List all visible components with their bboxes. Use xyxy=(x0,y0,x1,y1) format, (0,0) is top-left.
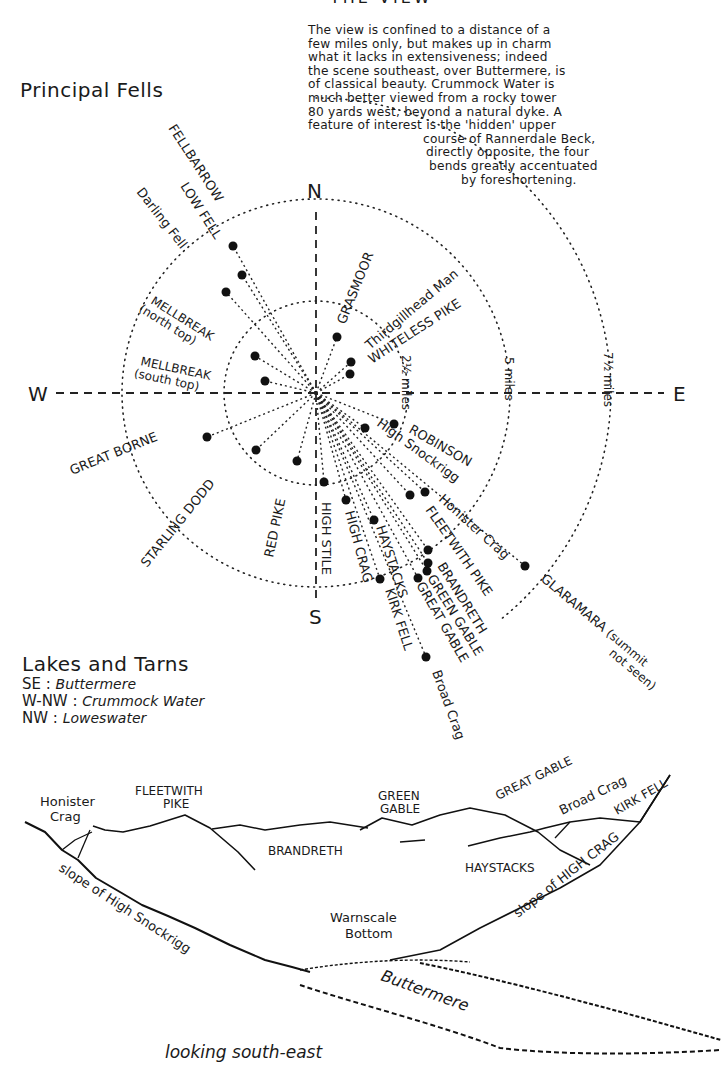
fell-dot-fleetwith-pike xyxy=(424,546,433,555)
fell-dot-honister-a xyxy=(406,491,415,500)
lakes-and-tarns: Lakes and Tarns SE : Buttermere W-NW : C… xyxy=(22,652,204,727)
fell-markers xyxy=(203,242,530,662)
fell-dot-red-pike xyxy=(293,457,302,466)
fell-dot-darling-fell xyxy=(222,288,231,297)
label-broad-crag: Broad Crag xyxy=(429,668,468,742)
fell-dot-grasmoor xyxy=(333,333,342,342)
north-label: N xyxy=(307,179,322,203)
fell-dot-brandreth xyxy=(424,559,433,568)
fell-dot-starling-dodd xyxy=(252,446,261,455)
label-kirk-fell: KIRK FELL xyxy=(382,586,416,652)
lake-item: SE : Buttermere xyxy=(22,676,204,693)
pano-haystacks: HAYSTACKS xyxy=(465,861,535,875)
lake-item: W-NW : Crummock Water xyxy=(22,693,204,710)
fell-dot-haystacks xyxy=(370,516,379,525)
fell-dot-fellbarrow xyxy=(229,242,238,251)
label-glaramara: GLARAMARA (summitnot seen) xyxy=(530,571,668,693)
ring-label-7-5: 7½ miles xyxy=(601,352,615,407)
pano-buttermere: Buttermere xyxy=(379,966,472,1015)
fell-dot-thirdgillhead-man xyxy=(347,358,356,367)
fell-dot-whiteless-pike xyxy=(346,370,355,379)
ridge-brandreth xyxy=(212,822,368,830)
west-label: W xyxy=(28,382,48,406)
compass-diagram: N S W E 2½ miles 5 miles 7½ miles xyxy=(0,0,721,1088)
fell-dot-mellbreak-south xyxy=(261,377,270,386)
fell-dot-honister-crag xyxy=(421,488,430,497)
fell-dot-high-crag xyxy=(342,496,351,505)
pano-great-gable: GREAT GABLE xyxy=(493,753,574,802)
label-high-stile: HIGH STILE xyxy=(319,502,334,575)
ridge-fleetwith-pike xyxy=(93,815,255,870)
label-great-borne: GREAT BORNE xyxy=(68,429,160,478)
pano-fleetwith-pike: FLEETWITHPIKE xyxy=(135,784,203,811)
label-grasmoor: GRASMOOR xyxy=(334,250,377,327)
label-red-pike: RED PIKE xyxy=(261,497,288,559)
fell-dot-high-snockrigg xyxy=(361,424,370,433)
ring-label-5: 5 miles xyxy=(502,357,516,400)
buttermere-shore-near xyxy=(300,985,721,1054)
fell-dot-low-fell xyxy=(238,271,247,280)
pano-slope-high-snockrigg: slope of High Snockrigg xyxy=(56,860,193,956)
lake-item: NW : Loweswater xyxy=(22,710,204,727)
fell-dot-glaramara xyxy=(521,562,530,571)
fell-dot-mellbreak-north xyxy=(251,352,260,361)
lakes-heading: Lakes and Tarns xyxy=(22,652,204,676)
east-label: E xyxy=(673,382,686,406)
fell-dot-great-borne xyxy=(203,433,212,442)
label-mellbreak-south: MELLBREAK(south top) xyxy=(133,353,214,395)
fell-dot-high-stile xyxy=(320,478,329,487)
pano-caption: looking south-east xyxy=(165,1042,323,1062)
south-label: S xyxy=(309,605,322,629)
label-mellbreak-north: MELLBREAK(north top) xyxy=(136,290,217,355)
fell-dot-green-gable xyxy=(423,567,432,576)
ridge-great-gable xyxy=(360,808,590,865)
label-darling-fell: Darling Fell xyxy=(134,185,191,252)
pano-green-gable: GREENGABLE xyxy=(378,789,420,816)
pano-brandreth: BRANDRETH xyxy=(268,844,343,858)
pano-warnscale: WarnscaleBottom xyxy=(330,910,397,941)
fell-dot-kirk-fell xyxy=(376,575,385,584)
ring-label-2-5: 2½ miles xyxy=(399,355,413,410)
pano-honister-crag: HonisterCrag xyxy=(40,794,95,824)
fell-dot-broad-crag xyxy=(422,653,431,662)
label-starling-dodd: STARLING DODD xyxy=(138,476,218,570)
